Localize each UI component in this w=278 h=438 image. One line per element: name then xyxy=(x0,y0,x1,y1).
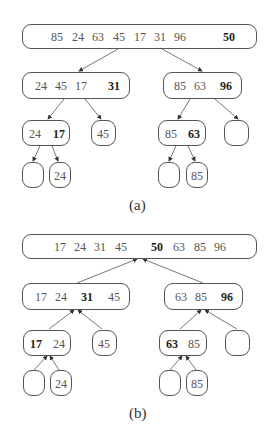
a-root-value: 63 xyxy=(92,31,104,43)
b-lr-value: 45 xyxy=(98,338,110,350)
a-right-node: 85 63 96 xyxy=(163,72,242,99)
b-left-left-node: 17 24 xyxy=(23,330,71,356)
a-root-value: 96 xyxy=(174,31,186,43)
a-root-value: 17 xyxy=(134,31,146,43)
b-root-left-value: 31 xyxy=(94,241,106,253)
b-root-pivot: 50 xyxy=(151,241,163,253)
b-ll-pivot: 17 xyxy=(30,338,42,350)
a-ll-value: 24 xyxy=(29,128,41,140)
a-ll-pivot: 17 xyxy=(53,128,65,140)
b-right-node: 63 85 96 xyxy=(164,283,243,310)
a-ll-left-node-empty xyxy=(22,162,44,188)
b-root-right-value: 85 xyxy=(194,241,206,253)
a-right-right-node-empty xyxy=(224,120,249,146)
b-root-right-value: 63 xyxy=(173,241,185,253)
a-ll-right-node: 24 xyxy=(49,162,71,188)
b-rl-left-node-empty xyxy=(159,370,181,396)
a-lr-value: 45 xyxy=(97,128,109,140)
a-left-value: 45 xyxy=(55,80,67,92)
a-rl-value: 85 xyxy=(165,128,177,140)
b-left-pivot: 31 xyxy=(81,291,93,303)
b-root-left-value: 17 xyxy=(54,241,66,253)
b-left-value: 45 xyxy=(108,291,120,303)
b-root-right-value: 96 xyxy=(214,241,226,253)
b-ll-left-node-empty xyxy=(23,370,45,396)
b-right-value: 85 xyxy=(195,291,207,303)
a-root-value: 85 xyxy=(51,31,63,43)
b-left-node: 17 24 31 45 xyxy=(22,283,130,310)
b-llr-value: 24 xyxy=(55,378,67,390)
b-ll-value: 24 xyxy=(53,338,65,350)
a-left-value: 17 xyxy=(75,80,87,92)
a-right-left-node: 85 63 xyxy=(158,120,206,146)
a-left-left-node: 24 17 xyxy=(22,120,70,146)
caption-a: (a) xyxy=(129,197,146,214)
b-right-pivot: 96 xyxy=(221,291,233,303)
b-root-left-value: 24 xyxy=(74,241,86,253)
a-rlr-value: 85 xyxy=(191,170,203,182)
a-rl-left-node-empty xyxy=(158,162,180,188)
a-rl-right-node: 85 xyxy=(186,162,208,188)
a-left-value: 24 xyxy=(35,80,47,92)
a-right-pivot: 96 xyxy=(220,80,232,92)
b-rl-pivot: 63 xyxy=(166,338,178,350)
b-rl-value: 85 xyxy=(188,338,200,350)
a-root-value: 31 xyxy=(154,31,166,43)
b-root-node: 17 24 31 45 50 63 85 96 xyxy=(22,234,257,259)
b-left-right-node: 45 xyxy=(92,330,117,356)
a-rl-pivot: 63 xyxy=(188,128,200,140)
a-root-node: 85 24 63 45 17 31 96 50 xyxy=(22,24,257,49)
a-left-right-node: 45 xyxy=(91,120,116,146)
a-root-value: 45 xyxy=(113,31,125,43)
b-right-left-node: 63 85 xyxy=(159,330,207,356)
a-left-pivot: 31 xyxy=(108,80,120,92)
caption-b: (b) xyxy=(129,405,147,422)
b-left-value: 17 xyxy=(35,291,47,303)
a-root-value: 24 xyxy=(72,31,84,43)
b-right-value: 63 xyxy=(175,291,187,303)
b-right-right-node-empty xyxy=(225,330,250,356)
b-rl-right-node: 85 xyxy=(186,370,208,396)
a-right-value: 63 xyxy=(194,80,206,92)
b-left-value: 24 xyxy=(55,291,67,303)
b-ll-right-node: 24 xyxy=(50,370,72,396)
a-right-value: 85 xyxy=(174,80,186,92)
a-root-pivot: 50 xyxy=(223,31,235,43)
b-root-left-value: 45 xyxy=(115,241,127,253)
b-rlr-value: 85 xyxy=(191,378,203,390)
a-llr-value: 24 xyxy=(54,170,66,182)
a-left-node: 24 45 17 31 xyxy=(22,72,130,99)
